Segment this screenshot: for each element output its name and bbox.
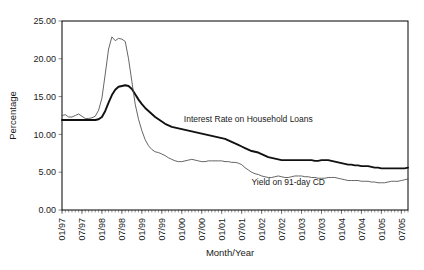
series-label-1: Interest Rate on Household Loans [184, 114, 313, 124]
x-axis-tick-label: 07/03 [317, 218, 327, 241]
y-axis-title: Percentage [7, 91, 18, 140]
x-axis-title: Month/Year [206, 247, 254, 258]
x-axis-tick-label: 07/97 [77, 218, 87, 241]
y-axis-tick-label: 15.00 [33, 92, 56, 102]
y-axis-tick-label: 5.00 [38, 167, 56, 177]
x-axis-tick-label: 01/02 [257, 218, 267, 241]
x-axis-tick-label: 01/05 [377, 218, 387, 241]
x-axis-tick-label: 01/03 [297, 218, 307, 241]
x-axis-tick-label: 07/99 [157, 218, 167, 241]
x-axis-tick-label: 07/05 [397, 218, 407, 241]
y-axis-tick-label: 25.00 [33, 16, 56, 26]
y-axis-tick-label: 20.00 [33, 54, 56, 64]
x-axis-tick-label: 01/97 [57, 218, 67, 241]
x-axis-tick-label: 01/01 [217, 218, 227, 241]
chart-container: 0.005.0010.0015.0020.0025.0001/9707/9701… [0, 0, 424, 270]
series-label-2: Yield on 91-day CD [252, 177, 325, 187]
x-axis-tick-label: 07/00 [197, 218, 207, 241]
y-axis-tick-label: 10.00 [33, 130, 56, 140]
x-axis-tick-label: 01/04 [337, 218, 347, 241]
series-line-2 [62, 37, 408, 183]
line-chart: 0.005.0010.0015.0020.0025.0001/9707/9701… [0, 0, 424, 270]
x-axis-tick-label: 07/04 [357, 218, 367, 241]
x-axis-tick-label: 01/00 [177, 218, 187, 241]
x-axis-tick-label: 07/98 [117, 218, 127, 241]
x-axis-tick-label: 07/01 [237, 218, 247, 241]
x-axis-tick-label: 01/98 [97, 218, 107, 241]
y-axis-tick-label: 0.00 [38, 205, 56, 215]
series-line-1 [62, 85, 408, 168]
x-axis-tick-label: 07/02 [277, 218, 287, 241]
x-axis-tick-label: 01/99 [137, 218, 147, 241]
